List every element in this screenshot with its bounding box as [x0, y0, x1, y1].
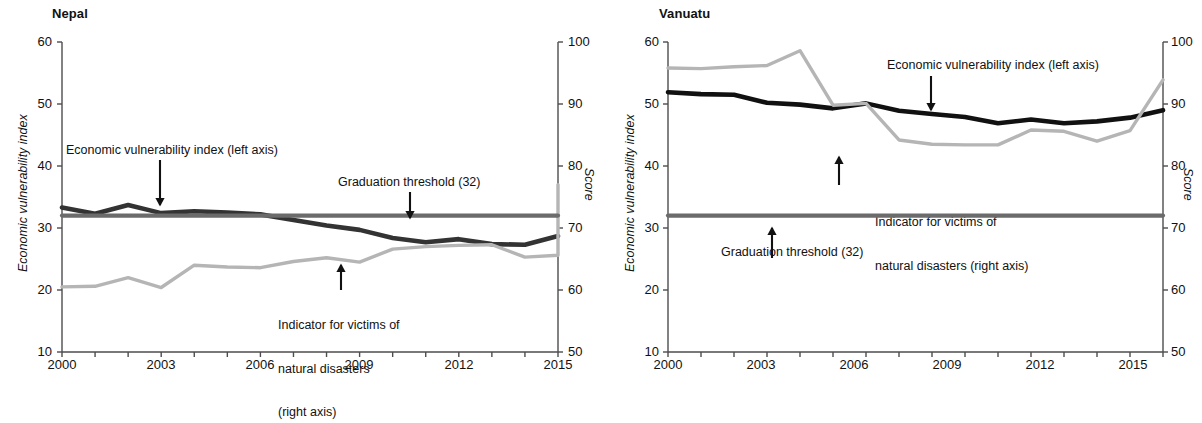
plot-area-vanuatu	[601, 0, 1202, 382]
plot-area-nepal	[0, 0, 601, 382]
annotation-indicator-nepal-line3: (right axis)	[278, 405, 400, 420]
chart-panel-vanuatu: Vanuatu Economic vulnerability index Sco…	[601, 0, 1202, 382]
chart-panel-nepal: Nepal Economic vulnerability index Score…	[0, 0, 601, 382]
